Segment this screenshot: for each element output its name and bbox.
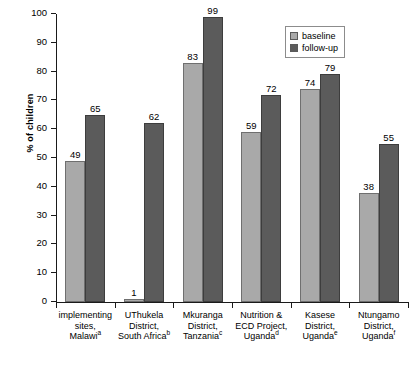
bar-follow-up: 99: [203, 17, 223, 302]
bar-chart: % of children 0102030405060708090100 496…: [0, 0, 418, 371]
x-axis-category-label: MkurangaDistrict,Tanzaniac: [169, 310, 236, 342]
y-axis-tick: 50: [51, 157, 56, 158]
y-axis-tick: 10: [51, 272, 56, 273]
bar-follow-up: 65: [85, 115, 105, 302]
bar-value-label: 55: [383, 133, 394, 143]
category-label-line: implementing: [52, 310, 119, 321]
x-axis-category-label: implementingsites,Malawia: [52, 310, 119, 342]
category-label-line: Mkuranga: [169, 310, 236, 321]
y-axis-tick: 0: [51, 301, 56, 302]
bar-baseline: 83: [183, 63, 203, 302]
x-axis-tick: [291, 303, 292, 308]
category-label-superscript: c: [219, 329, 222, 336]
y-axis-line: [56, 14, 57, 303]
category-label-superscript: a: [98, 329, 102, 336]
legend: baseline follow-up: [285, 26, 345, 58]
y-axis-label: % of children: [25, 63, 35, 183]
category-label-line: Ntungamo: [345, 310, 412, 321]
y-axis-tick: 20: [51, 243, 56, 244]
x-axis-category-label: NtungamoDistrict,Ugandaf: [345, 310, 412, 342]
category-label-superscript: f: [394, 329, 396, 336]
x-axis-tick: [56, 303, 57, 308]
y-axis-tick: 80: [51, 71, 56, 72]
bar-value-label: 38: [363, 182, 374, 192]
x-axis-tick: [173, 303, 174, 308]
bar-value-label: 79: [325, 63, 336, 73]
category-label-line: ECD Project,: [228, 321, 295, 332]
bar-value-label: 65: [90, 104, 101, 114]
category-label-superscript: e: [334, 329, 338, 336]
legend-item-follow-up: follow-up: [290, 42, 338, 54]
plot-area: 0102030405060708090100 49651628399597274…: [56, 14, 408, 302]
category-label-line: UThukela: [111, 310, 178, 321]
bar-follow-up: 62: [144, 123, 164, 302]
bar-value-label: 59: [246, 121, 257, 131]
bar-follow-up: 55: [379, 144, 399, 302]
bar-value-label: 49: [70, 150, 81, 160]
x-axis-tick: [408, 303, 409, 308]
legend-label-follow-up: follow-up: [302, 43, 338, 54]
y-axis-tick-label: 50: [36, 151, 47, 162]
y-axis-tick-label: 40: [36, 180, 47, 191]
bar-value-label: 99: [207, 6, 218, 16]
y-axis-tick: 90: [51, 42, 56, 43]
category-label-line: South Africab: [111, 331, 178, 342]
y-axis-tick-label: 90: [36, 36, 47, 47]
y-axis-tick-label: 70: [36, 93, 47, 104]
y-axis-tick-label: 100: [31, 7, 47, 18]
legend-label-baseline: baseline: [302, 31, 336, 42]
bar-baseline: 38: [359, 193, 379, 302]
legend-swatch-follow-up-icon: [290, 44, 298, 52]
bar-follow-up: 72: [261, 95, 281, 302]
category-label-line: District,: [287, 321, 354, 332]
x-axis-tick: [115, 303, 116, 308]
y-axis-tick: 60: [51, 128, 56, 129]
category-label-line: Tanzaniac: [169, 331, 236, 342]
category-label-line: sites,: [52, 321, 119, 332]
category-label-line: Ugandaf: [345, 331, 412, 342]
y-axis-tick-label: 0: [42, 295, 47, 306]
category-label-line: District,: [169, 321, 236, 332]
bar-value-label: 83: [187, 52, 198, 62]
category-label-superscript: d: [275, 329, 279, 336]
y-axis-tick-label: 60: [36, 122, 47, 133]
y-axis-tick: 70: [51, 99, 56, 100]
bar-value-label: 62: [149, 112, 160, 122]
caption-sliver: [6, 363, 406, 371]
bar-baseline: 59: [241, 132, 261, 302]
x-axis-tick: [349, 303, 350, 308]
bar-baseline: 74: [300, 89, 320, 302]
y-axis-tick-label: 10: [36, 266, 47, 277]
category-label-line: Ugandad: [228, 331, 295, 342]
bar-baseline: 49: [65, 161, 85, 302]
y-axis-tick-label: 80: [36, 65, 47, 76]
x-axis-tick: [232, 303, 233, 308]
bar-follow-up: 79: [320, 74, 340, 302]
legend-swatch-baseline-icon: [290, 32, 298, 40]
bar-value-label: 72: [266, 84, 277, 94]
y-axis-tick: 100: [51, 13, 56, 14]
y-axis-tick-label: 20: [36, 237, 47, 248]
legend-item-baseline: baseline: [290, 30, 338, 42]
y-axis-tick: 40: [51, 186, 56, 187]
y-axis-tick-label: 30: [36, 209, 47, 220]
bar-value-label: 1: [131, 288, 136, 298]
bar-baseline: 1: [124, 299, 144, 302]
category-label-line: Nutrition &: [228, 310, 295, 321]
x-axis-category-label: KaseseDistrict,Ugandae: [287, 310, 354, 342]
x-axis-category-label: UThukelaDistrict,South Africab: [111, 310, 178, 342]
category-label-line: District,: [345, 321, 412, 332]
x-axis-category-label: Nutrition &ECD Project,Ugandad: [228, 310, 295, 342]
bar-value-label: 74: [305, 78, 316, 88]
category-label-line: Malawia: [52, 331, 119, 342]
category-label-line: Kasese: [287, 310, 354, 321]
y-axis-tick: 30: [51, 215, 56, 216]
category-label-line: Ugandae: [287, 331, 354, 342]
